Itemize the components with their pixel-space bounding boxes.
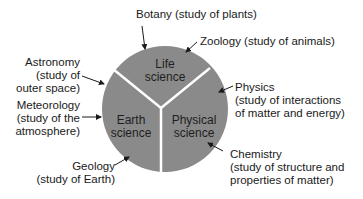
arrow-astronomy <box>82 76 104 84</box>
label-astronomy-line3: outer space) <box>16 82 80 95</box>
label-meteorology-line2: (study of the <box>15 112 80 125</box>
label-zoology-line1: Zoology (study of animals) <box>200 35 335 48</box>
label-botany: Botany (study of plants) <box>136 8 257 21</box>
segment-earth-line2: science <box>103 127 159 140</box>
label-zoology: Zoology (study of animals) <box>200 35 335 48</box>
label-chemistry-line1: Chemistry <box>230 148 344 161</box>
label-meteorology: Meteorology (study of the atmosphere) <box>15 99 80 138</box>
label-astronomy: Astronomy (study of outer space) <box>16 56 80 95</box>
segment-life-line2: science <box>135 71 195 84</box>
label-chemistry-line2: (study of structure and <box>230 161 344 174</box>
segment-physical-science: Physical science <box>163 114 225 140</box>
label-chemistry: Chemistry (study of structure and proper… <box>230 148 344 187</box>
label-physics-line1: Physics <box>235 81 345 94</box>
arrow-botany <box>142 26 145 49</box>
label-physics-line2: (study of interactions <box>235 94 345 107</box>
label-physics-line3: of matter and energy) <box>235 107 345 120</box>
label-geology: Geology (study of Earth) <box>36 160 115 186</box>
label-astronomy-line2: (study of <box>16 69 80 82</box>
arrow-geology <box>115 157 129 165</box>
label-meteorology-line3: atmosphere) <box>15 125 80 138</box>
segment-life-science: Life science <box>135 58 195 84</box>
label-geology-line2: (study of Earth) <box>36 173 115 186</box>
label-botany-line1: Botany (study of plants) <box>136 8 257 21</box>
segment-earth-science: Earth science <box>103 114 159 140</box>
label-meteorology-line1: Meteorology <box>15 99 80 112</box>
segment-physical-line2: science <box>163 127 225 140</box>
label-physics: Physics (study of interactions of matter… <box>235 81 345 120</box>
label-chemistry-line3: properties of matter) <box>230 174 344 187</box>
arrow-zoology <box>186 42 197 52</box>
label-astronomy-line1: Astronomy <box>16 56 80 69</box>
label-geology-line1: Geology <box>36 160 115 173</box>
